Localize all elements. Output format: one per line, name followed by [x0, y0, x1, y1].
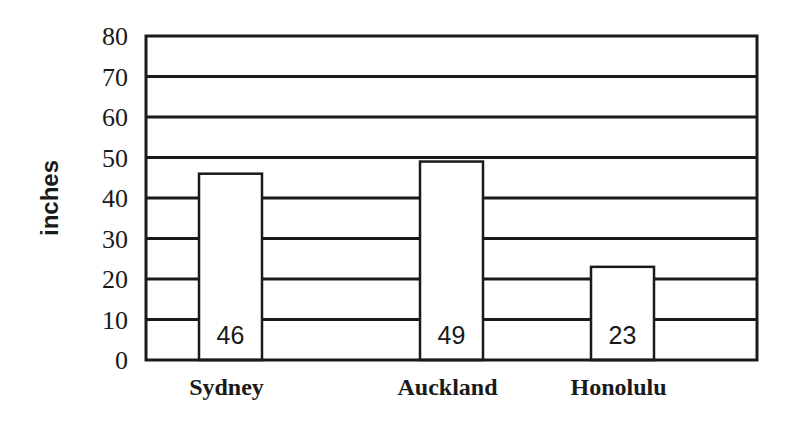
y-tick-label: 60 — [102, 103, 128, 132]
y-tick-label: 80 — [102, 22, 128, 51]
y-tick-label: 30 — [102, 225, 128, 254]
bars: 464923 — [199, 162, 654, 360]
bar-value-label: 49 — [438, 321, 466, 349]
x-category-label: Sydney — [189, 374, 264, 400]
y-tick-label: 40 — [102, 184, 128, 213]
bar-value-label: 23 — [609, 321, 637, 349]
x-axis-categories: SydneyAucklandHonolulu — [189, 374, 666, 400]
y-tick-label: 70 — [102, 63, 128, 92]
y-tick-label: 10 — [102, 306, 128, 335]
x-category-label: Honolulu — [570, 374, 666, 400]
y-tick-label: 20 — [102, 265, 128, 294]
bar-value-label: 46 — [217, 321, 245, 349]
x-category-label: Auckland — [397, 374, 498, 400]
y-axis-label: inches — [36, 160, 63, 236]
bar-chart: 464923 01020304050607080 SydneyAucklandH… — [0, 0, 788, 432]
y-axis-ticks: 01020304050607080 — [102, 22, 128, 375]
y-tick-label: 0 — [115, 346, 128, 375]
y-tick-label: 50 — [102, 144, 128, 173]
